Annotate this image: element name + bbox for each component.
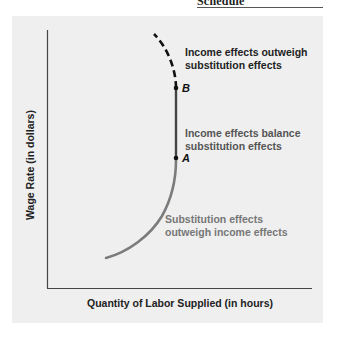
annotation-line: Income effects balance (185, 127, 301, 140)
annotation-line: Substitution effects (165, 213, 288, 226)
y-axis-label: Wage Rate (in dollars) (24, 110, 36, 220)
annotation-line: outweigh income effects (165, 226, 288, 239)
annotation-line: substitution effects (185, 59, 308, 72)
annotation-line: substitution effects (185, 140, 301, 153)
point-a-marker (174, 156, 179, 161)
point-b-marker (174, 86, 179, 91)
point-a-label: A (182, 152, 190, 164)
annotation-income-balance: Income effects balance substitution effe… (185, 127, 301, 152)
backward-bending-dashed-curve (154, 34, 176, 88)
point-b-label: B (182, 82, 190, 94)
annotation-line: Income effects outweigh (185, 46, 308, 59)
lower-supply-curve (106, 160, 176, 258)
annotation-substitution-outweigh: Substitution effects outweigh income eff… (165, 213, 288, 238)
annotation-income-outweigh: Income effects outweigh substitution eff… (185, 46, 308, 71)
x-axis-label: Quantity of Labor Supplied (in hours) (87, 297, 273, 309)
